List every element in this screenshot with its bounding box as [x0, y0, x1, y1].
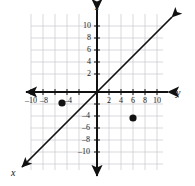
axis-label-z: z [95, 2, 99, 12]
tick-label-z-2: 2 [87, 70, 91, 78]
tick-label-z-neg4: –4 [82, 112, 90, 120]
tick-label-z-8: 8 [87, 34, 91, 42]
tick-label-y-8: 8 [143, 97, 147, 105]
tick-label-y-neg8: –8 [40, 97, 48, 105]
graph-canvas: –10 –8 –4 2 4 6 8 10 10 8 6 4 2 –4 –6 –8… [0, 0, 195, 186]
tick-label-y-6: 6 [131, 97, 135, 105]
tick-label-z-4: 4 [87, 58, 91, 66]
tick-label-z-neg6: –6 [82, 124, 90, 132]
tick-label-y-2: 2 [107, 97, 111, 105]
tick-label-z-10: 10 [83, 22, 91, 30]
tick-label-y-4: 4 [119, 97, 123, 105]
axis-label-x: x [11, 168, 15, 178]
axis-label-y: y [176, 88, 180, 98]
tick-label-y-10: 10 [153, 97, 161, 105]
tick-label-z-neg10: –10 [78, 148, 90, 156]
tick-label-y-neg10: –10 [25, 97, 37, 105]
coordinate-plane-figure [0, 0, 195, 186]
tick-label-y-neg4: –4 [64, 97, 72, 105]
tick-label-z-6: 6 [87, 46, 91, 54]
data-point [129, 114, 136, 121]
tick-label-z-neg8: –8 [82, 136, 90, 144]
